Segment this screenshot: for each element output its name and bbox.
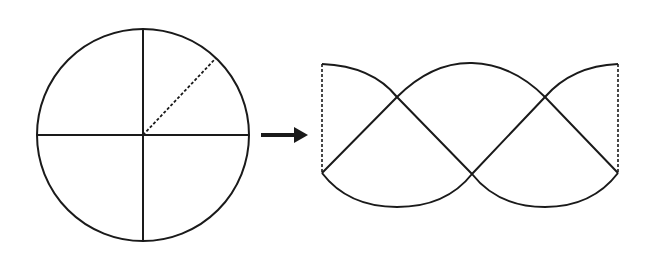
- dashed-radius: [143, 58, 216, 135]
- bottom-arc-right: [472, 173, 618, 207]
- circle-figure: [37, 29, 249, 241]
- arrow-head-icon: [294, 127, 308, 143]
- bottom-arc-left: [322, 173, 472, 207]
- arrow: [261, 127, 308, 143]
- wave-up-arc: [322, 63, 618, 173]
- wave-up-2: [472, 64, 618, 174]
- wave-down-1: [322, 64, 472, 174]
- unrolled-figure: [322, 63, 618, 207]
- diagram-canvas: [0, 0, 648, 256]
